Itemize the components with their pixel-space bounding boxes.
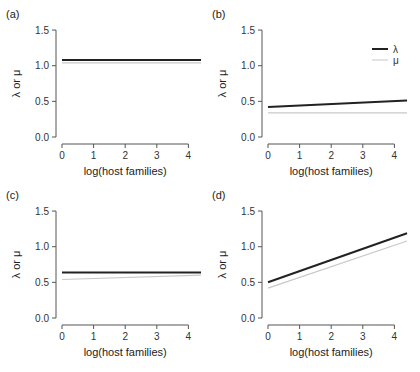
- lambda-line: [268, 233, 407, 282]
- x-tick-label: 2: [328, 331, 334, 342]
- x-tick-label: 1: [91, 331, 97, 342]
- y-axis-title: λ or μ: [10, 70, 22, 98]
- legend-mu-label: μ: [393, 55, 399, 66]
- x-tick-label: 1: [91, 150, 97, 161]
- x-tick-label: 1: [297, 150, 303, 161]
- y-tick-label: 0.0: [241, 313, 255, 324]
- y-tick-label: 0.5: [241, 277, 255, 288]
- x-tick-label: 2: [122, 331, 128, 342]
- chart-panel-d: (d)0.00.51.01.501234log(host families)λ …: [212, 189, 407, 358]
- legend-lambda-label: λ: [393, 44, 398, 55]
- y-tick-label: 0.0: [35, 132, 49, 143]
- y-tick-label: 1.0: [241, 241, 255, 252]
- mu-line: [62, 275, 201, 279]
- y-tick-label: 1.0: [241, 60, 255, 71]
- y-tick-label: 0.5: [241, 96, 255, 107]
- x-tick-label: 3: [154, 150, 160, 161]
- mu-line: [268, 241, 407, 288]
- chart-panel-c: (c)0.00.51.01.501234log(host families)λ …: [6, 189, 201, 358]
- panel-label: (c): [6, 189, 19, 201]
- y-tick-label: 1.5: [35, 25, 49, 36]
- x-tick-label: 0: [265, 150, 271, 161]
- y-tick-label: 1.0: [35, 60, 49, 71]
- y-tick-label: 1.5: [35, 206, 49, 217]
- y-tick-label: 0.5: [35, 277, 49, 288]
- x-tick-label: 3: [360, 150, 366, 161]
- x-tick-label: 0: [59, 331, 65, 342]
- y-tick-label: 1.5: [241, 25, 255, 36]
- x-axis-title: log(host families): [84, 165, 167, 177]
- figure: (a)0.00.51.01.501234log(host families)λ …: [0, 0, 420, 372]
- x-tick-label: 1: [297, 331, 303, 342]
- y-axis-title: λ or μ: [216, 251, 228, 279]
- y-tick-label: 0.0: [35, 313, 49, 324]
- y-tick-label: 0.0: [241, 132, 255, 143]
- x-tick-label: 0: [59, 150, 65, 161]
- x-tick-label: 3: [360, 331, 366, 342]
- panel-label: (a): [6, 8, 19, 20]
- chart-panel-b: (b)0.00.51.01.501234log(host families)λ …: [212, 8, 407, 177]
- x-tick-label: 4: [392, 150, 398, 161]
- x-tick-label: 0: [265, 331, 271, 342]
- lambda-line: [268, 101, 407, 108]
- y-tick-label: 1.5: [241, 206, 255, 217]
- x-axis-title: log(host families): [290, 165, 373, 177]
- x-tick-label: 4: [186, 331, 192, 342]
- y-axis-title: λ or μ: [216, 70, 228, 98]
- x-axis-title: log(host families): [84, 346, 167, 358]
- x-tick-label: 2: [122, 150, 128, 161]
- x-tick-label: 3: [154, 331, 160, 342]
- x-tick-label: 4: [392, 331, 398, 342]
- panel-label: (d): [212, 189, 225, 201]
- panel-label: (b): [212, 8, 225, 20]
- chart-panel-a: (a)0.00.51.01.501234log(host families)λ …: [6, 8, 201, 177]
- y-tick-label: 0.5: [35, 96, 49, 107]
- y-axis-title: λ or μ: [10, 251, 22, 279]
- x-axis-title: log(host families): [290, 346, 373, 358]
- y-tick-label: 1.0: [35, 241, 49, 252]
- x-tick-label: 4: [186, 150, 192, 161]
- x-tick-label: 2: [328, 150, 334, 161]
- legend: λμ: [372, 44, 399, 66]
